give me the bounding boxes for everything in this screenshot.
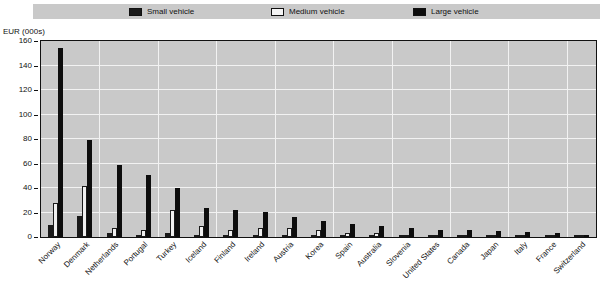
legend-swatch-small-vehicle bbox=[129, 8, 142, 16]
bar-group bbox=[70, 41, 99, 237]
bar-group bbox=[129, 41, 158, 237]
bar-group bbox=[421, 41, 450, 237]
legend-swatch-medium-vehicle bbox=[271, 8, 284, 16]
bar-group bbox=[99, 41, 128, 237]
bar-group bbox=[450, 41, 479, 237]
y-tick-label: 60 bbox=[23, 160, 32, 168]
y-tick-mark bbox=[34, 41, 38, 42]
bar-group bbox=[333, 41, 362, 237]
bar-group bbox=[216, 41, 245, 237]
y-axis-title: EUR (000s) bbox=[3, 27, 45, 36]
legend-swatch-large-vehicle bbox=[413, 8, 426, 16]
legend-item-small-vehicle: Small vehicle bbox=[129, 4, 194, 19]
bar-group bbox=[304, 41, 333, 237]
bar-group bbox=[187, 41, 216, 237]
chart-legend: Small vehicle Medium vehicle Large vehic… bbox=[33, 4, 600, 19]
bar-group bbox=[41, 41, 70, 237]
bar-large bbox=[467, 230, 472, 237]
bar-large bbox=[233, 210, 238, 237]
y-tick-mark bbox=[34, 188, 38, 189]
y-tick-mark bbox=[34, 213, 38, 214]
bar-large bbox=[321, 221, 326, 237]
bar-large bbox=[58, 48, 63, 237]
legend-label-medium-vehicle: Medium vehicle bbox=[289, 7, 345, 16]
y-tick-label: 80 bbox=[23, 135, 32, 143]
bar-large bbox=[117, 165, 122, 237]
bar-large bbox=[292, 217, 297, 237]
y-tick-label: 40 bbox=[23, 184, 32, 192]
bar-large bbox=[525, 232, 530, 237]
bar-large bbox=[350, 224, 355, 237]
bar-group bbox=[362, 41, 391, 237]
bar-large bbox=[204, 208, 209, 237]
legend-label-large-vehicle: Large vehicle bbox=[431, 7, 479, 16]
y-tick-label: 140 bbox=[19, 62, 32, 70]
bar-group bbox=[245, 41, 274, 237]
bar-group bbox=[479, 41, 508, 237]
bar-large bbox=[438, 230, 443, 237]
y-tick-mark bbox=[34, 139, 38, 140]
y-tick-label: 100 bbox=[19, 111, 32, 119]
bar-group bbox=[538, 41, 567, 237]
bar-group bbox=[158, 41, 187, 237]
bar-group bbox=[275, 41, 304, 237]
y-axis: 020406080100120140160 bbox=[0, 40, 38, 238]
legend-label-small-vehicle: Small vehicle bbox=[147, 7, 194, 16]
bar-group bbox=[508, 41, 537, 237]
y-tick-mark bbox=[34, 90, 38, 91]
y-tick-mark bbox=[34, 115, 38, 116]
bar-large bbox=[584, 235, 589, 237]
legend-item-medium-vehicle: Medium vehicle bbox=[271, 4, 345, 19]
bar-group bbox=[567, 41, 596, 237]
bar-large bbox=[263, 212, 268, 237]
y-tick-label: 160 bbox=[19, 37, 32, 45]
bar-group bbox=[392, 41, 421, 237]
bar-large bbox=[496, 231, 501, 237]
bars-layer bbox=[41, 41, 596, 237]
bar-large bbox=[146, 175, 151, 237]
y-tick-label: 20 bbox=[23, 209, 32, 217]
bar-large bbox=[379, 226, 384, 237]
y-tick-label: 120 bbox=[19, 86, 32, 94]
bar-large bbox=[175, 188, 180, 237]
legend-item-large-vehicle: Large vehicle bbox=[413, 4, 479, 19]
y-tick-mark bbox=[34, 164, 38, 165]
bar-large bbox=[555, 233, 560, 237]
bar-large bbox=[87, 140, 92, 237]
x-axis: NorwayDenmarkNetherlandsPortugalTurkeyIc… bbox=[0, 238, 600, 285]
y-tick-mark bbox=[34, 66, 38, 67]
bar-large bbox=[409, 228, 414, 237]
